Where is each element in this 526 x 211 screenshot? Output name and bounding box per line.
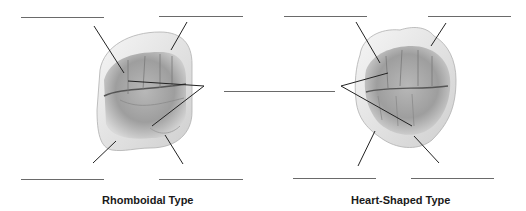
caption-rhomboidal: Rhomboidal Type	[102, 194, 193, 206]
diagram-canvas	[0, 0, 526, 211]
tooth-rhomboidal	[97, 32, 192, 151]
caption-heart-shaped: Heart-Shaped Type	[351, 194, 450, 206]
